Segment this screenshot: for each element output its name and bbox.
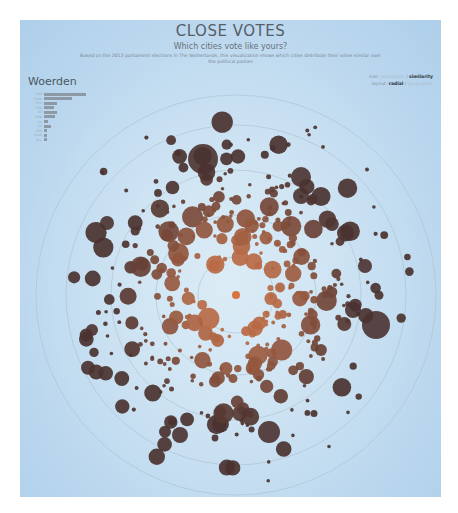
city-bubble[interactable] <box>144 384 161 401</box>
city-bubble[interactable] <box>165 210 169 214</box>
city-bubble[interactable] <box>200 411 204 415</box>
city-bubble[interactable] <box>306 339 310 343</box>
city-bubble[interactable] <box>184 288 189 293</box>
city-bubble[interactable] <box>103 322 108 327</box>
city-bubble[interactable] <box>252 234 257 239</box>
city-bubble[interactable] <box>234 228 252 246</box>
city-bubble[interactable] <box>125 316 138 329</box>
city-bubble[interactable] <box>131 257 151 277</box>
city-bubble[interactable] <box>290 240 296 246</box>
city-bubble[interactable] <box>164 342 168 346</box>
city-bubble[interactable] <box>154 179 159 184</box>
city-bubble[interactable] <box>268 206 273 211</box>
city-bubble[interactable] <box>271 320 275 324</box>
city-bubble[interactable] <box>375 291 384 300</box>
city-bubble[interactable] <box>168 221 175 228</box>
city-bubble[interactable] <box>100 216 114 230</box>
city-bubble[interactable] <box>190 356 194 360</box>
city-bubble[interactable] <box>306 399 310 403</box>
city-bubble[interactable] <box>104 310 108 314</box>
city-bubble[interactable] <box>333 378 352 397</box>
city-bubble[interactable] <box>213 403 233 423</box>
city-bubble[interactable] <box>358 259 372 273</box>
size-option-population[interactable]: population <box>381 74 405 79</box>
city-bubble[interactable] <box>256 376 262 382</box>
city-bubble[interactable] <box>216 260 221 265</box>
city-bubble[interactable] <box>162 384 166 388</box>
city-bubble[interactable] <box>111 266 115 270</box>
city-bubble[interactable] <box>179 234 183 238</box>
city-bubble[interactable] <box>162 315 166 319</box>
city-bubble[interactable] <box>345 302 361 318</box>
city-bubble[interactable] <box>122 240 130 248</box>
city-bubble[interactable] <box>212 435 219 442</box>
city-bubble[interactable] <box>310 319 317 326</box>
city-bubble[interactable] <box>256 344 260 348</box>
city-bubble[interactable] <box>232 195 242 205</box>
city-bubble[interactable] <box>86 324 98 336</box>
city-bubble[interactable] <box>138 280 142 284</box>
city-bubble[interactable] <box>327 285 332 290</box>
city-bubble[interactable] <box>315 344 327 356</box>
city-bubble[interactable] <box>308 262 316 270</box>
city-bubble[interactable] <box>213 234 217 238</box>
city-bubble[interactable] <box>405 267 414 276</box>
city-bubble[interactable] <box>114 308 120 314</box>
city-bubble[interactable] <box>340 222 360 242</box>
city-bubble[interactable] <box>166 181 180 195</box>
city-bubble[interactable] <box>372 205 376 209</box>
city-bubble[interactable] <box>338 179 357 198</box>
city-bubble[interactable] <box>150 255 159 264</box>
city-bubble[interactable] <box>336 277 340 281</box>
city-bubble[interactable] <box>209 332 218 341</box>
city-bubble[interactable] <box>174 252 184 262</box>
city-bubble[interactable] <box>299 211 303 215</box>
city-bubble[interactable] <box>345 319 349 323</box>
city-bubble[interactable] <box>203 205 215 217</box>
city-bubble[interactable] <box>271 267 275 271</box>
city-bubble[interactable] <box>313 125 317 129</box>
city-bubble[interactable] <box>194 253 200 259</box>
city-bubble[interactable] <box>196 221 213 238</box>
city-bubble[interactable] <box>309 290 313 294</box>
city-bubble[interactable] <box>217 176 223 182</box>
city-bubble[interactable] <box>155 224 160 229</box>
city-bubble[interactable] <box>129 353 133 357</box>
city-bubble[interactable] <box>213 220 217 224</box>
city-bubble[interactable] <box>110 352 114 356</box>
city-bubble[interactable] <box>220 152 233 165</box>
city-bubble[interactable] <box>166 135 176 145</box>
city-bubble[interactable] <box>310 272 317 279</box>
city-bubble[interactable] <box>285 182 291 188</box>
city-bubble[interactable] <box>283 249 287 253</box>
city-bubble[interactable] <box>106 334 110 338</box>
city-bubble[interactable] <box>133 243 138 248</box>
city-bubble[interactable] <box>172 427 188 443</box>
city-bubble[interactable] <box>267 285 273 291</box>
city-bubble[interactable] <box>255 242 259 246</box>
city-bubble[interactable] <box>157 359 163 365</box>
city-bubble[interactable] <box>235 433 239 437</box>
selected-city-bubble[interactable] <box>232 291 240 299</box>
city-bubble[interactable] <box>216 233 227 244</box>
city-bubble[interactable] <box>346 294 350 298</box>
city-bubble[interactable] <box>169 310 183 324</box>
city-bubble[interactable] <box>144 339 148 343</box>
city-bubble[interactable] <box>188 144 218 174</box>
city-bubble[interactable] <box>89 348 98 357</box>
city-bubble[interactable] <box>185 315 190 320</box>
city-bubble[interactable] <box>257 217 261 221</box>
city-bubble[interactable] <box>250 380 254 384</box>
city-bubble[interactable] <box>293 188 309 204</box>
city-bubble[interactable] <box>267 460 271 464</box>
city-bubble[interactable] <box>132 408 136 412</box>
city-bubble[interactable] <box>269 187 275 193</box>
city-bubble[interactable] <box>374 232 378 236</box>
city-bubble[interactable] <box>404 254 411 261</box>
city-bubble[interactable] <box>222 140 232 150</box>
city-bubble[interactable] <box>307 133 311 137</box>
city-bubble[interactable] <box>290 408 294 412</box>
city-bubble[interactable] <box>223 172 227 176</box>
city-bubble[interactable] <box>219 460 235 476</box>
city-bubble[interactable] <box>365 168 369 172</box>
